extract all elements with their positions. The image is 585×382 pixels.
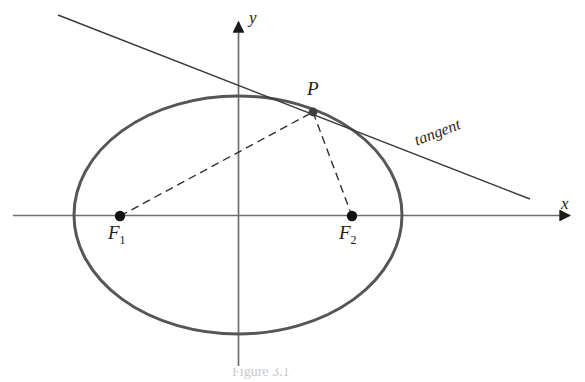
y-axis-label: y xyxy=(249,9,257,26)
figure-caption-partial: Figure 3.1 xyxy=(232,368,290,380)
point-p-marker xyxy=(309,108,318,117)
focus-1-marker xyxy=(115,211,125,221)
point-p-label: P xyxy=(307,79,319,98)
focus-2-label: F2 xyxy=(339,223,357,242)
focus-1-letter: F xyxy=(108,222,120,243)
tangent-line xyxy=(58,15,530,199)
focus-1-index: 1 xyxy=(120,233,126,247)
focus-2-letter: F xyxy=(339,222,351,243)
diagram-canvas xyxy=(0,0,585,382)
segment-focus1-to-p xyxy=(120,112,313,216)
caption-strip: Figure 3.1 xyxy=(0,368,585,382)
ellipse-tangent-figure: y x P F1 F2 tangent Figure 3.1 xyxy=(0,0,585,382)
focus-2-marker xyxy=(347,211,357,221)
x-axis-label: x xyxy=(561,195,569,212)
focus-1-label: F1 xyxy=(108,223,126,242)
focus-2-index: 2 xyxy=(351,233,357,247)
